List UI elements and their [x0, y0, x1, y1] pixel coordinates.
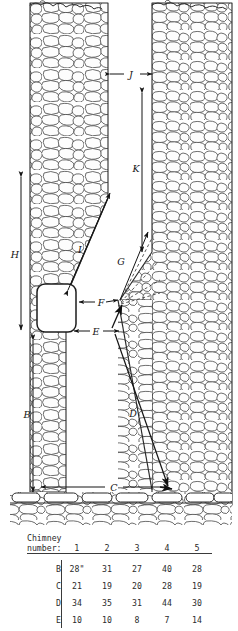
dimension-K: K — [131, 93, 142, 252]
smoke-chamber-slope — [118, 300, 152, 490]
column-header-5: 5 — [182, 534, 212, 554]
chimney-dimension-table: Chimneynumber: 1 2 3 4 5 B 28 — [27, 534, 212, 628]
cell-E-1: 10 — [62, 611, 93, 628]
table-header-line1: Chimney — [27, 533, 62, 543]
table-row: B 28" 31 27 40 28 — [27, 560, 212, 577]
column-header-4: 4 — [152, 534, 182, 554]
dimension-F: F — [79, 297, 118, 308]
table-header-row: Chimneynumber: 1 2 3 4 5 — [27, 534, 212, 554]
table-header-label: Chimneynumber: — [27, 534, 62, 554]
dimension-label-K: K — [131, 163, 140, 174]
cell-C-3: 20 — [122, 577, 152, 594]
cell-B-5: 28 — [182, 560, 212, 577]
cell-E-4: 7 — [152, 611, 182, 628]
dimension-label-G: G — [117, 256, 125, 267]
dimension-label-B: B — [23, 409, 31, 420]
dimension-label-I: I — [77, 244, 82, 255]
dimension-label-H: H — [10, 249, 20, 260]
cell-B-4: 40 — [152, 560, 182, 577]
hearth-floor — [10, 492, 234, 528]
cell-C-4: 28 — [152, 577, 182, 594]
column-header-3: 3 — [122, 534, 152, 554]
cell-B-2: 31 — [92, 560, 122, 577]
column-header-2: 2 — [92, 534, 122, 554]
cell-E-5: 14 — [182, 611, 212, 628]
row-label-B: B — [27, 560, 62, 577]
cell-B-1: 28" — [62, 560, 93, 577]
cell-D-4: 44 — [152, 594, 182, 611]
dimension-label-D: D — [128, 408, 137, 419]
cell-C-5: 19 — [182, 577, 212, 594]
cell-D-1: 34 — [62, 594, 93, 611]
dimension-H: H — [10, 177, 21, 330]
row-label-E: E — [27, 611, 62, 628]
dimension-label-F: F — [97, 297, 105, 308]
damper-flue-box — [37, 284, 76, 332]
dimension-J: J — [110, 69, 152, 80]
dimension-E: E — [74, 305, 122, 337]
cell-D-3: 31 — [122, 594, 152, 611]
cell-C-1: 21 — [62, 577, 93, 594]
cell-B-3: 27 — [122, 560, 152, 577]
cell-D-2: 35 — [92, 594, 122, 611]
dimension-label-C: C — [110, 482, 118, 493]
row-label-D: D — [27, 594, 62, 611]
cell-D-5: 30 — [182, 594, 212, 611]
left-masonry-wall — [30, 1, 108, 492]
cell-E-2: 10 — [92, 611, 122, 628]
table-row: D 34 35 31 44 30 — [27, 594, 212, 611]
dimension-label-J: J — [127, 69, 134, 80]
table-header-line2: number: — [27, 543, 62, 553]
table-row: E 10 10 8 7 14 — [27, 611, 212, 628]
table-row: C 21 19 20 28 19 — [27, 577, 212, 594]
column-header-1: 1 — [62, 534, 93, 554]
cell-E-3: 8 — [122, 611, 152, 628]
chimney-dimension-table-wrap: Chimneynumber: 1 2 3 4 5 B 28 — [0, 534, 238, 631]
dimension-label-E: E — [92, 326, 100, 337]
cell-C-2: 19 — [92, 577, 122, 594]
row-label-C: C — [27, 577, 62, 594]
